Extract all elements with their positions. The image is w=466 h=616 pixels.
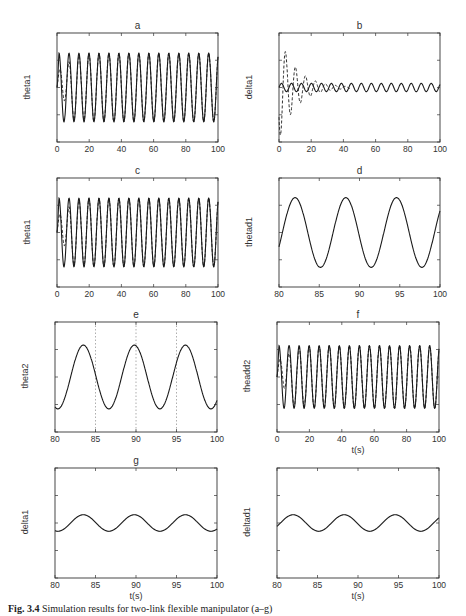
x-tick-label: 80 — [395, 434, 419, 444]
axes-box — [277, 468, 439, 578]
x-axis-label: t(s) — [277, 591, 439, 601]
x-tick-label: 80 — [265, 580, 289, 590]
x-tick-label: 85 — [307, 289, 331, 299]
x-axis-label: t(s) — [55, 591, 217, 601]
solid-series — [277, 346, 439, 409]
x-tick-label: 0 — [267, 144, 291, 154]
chart-title: a — [57, 20, 218, 31]
plot-area — [57, 178, 218, 287]
x-tick-label: 100 — [428, 144, 452, 154]
plot-area — [57, 33, 218, 142]
dashed-series — [279, 52, 351, 136]
x-tick-label: 95 — [165, 434, 189, 444]
x-tick-label: 80 — [43, 580, 67, 590]
solid-series — [279, 198, 440, 268]
x-tick-label: 80 — [396, 144, 420, 154]
x-tick-label: 0 — [45, 144, 69, 154]
x-tick-label: 0 — [265, 434, 289, 444]
x-tick-label: 20 — [77, 144, 101, 154]
x-tick-label: 90 — [348, 289, 372, 299]
x-tick-label: 100 — [205, 434, 229, 444]
chart-title: g — [55, 455, 217, 466]
plot-area — [55, 468, 217, 578]
axes-box — [55, 468, 217, 578]
x-tick-label: 90 — [346, 580, 370, 590]
x-tick-label: 80 — [267, 289, 291, 299]
solid-series — [277, 515, 439, 532]
x-tick-label: 100 — [206, 144, 230, 154]
y-axis-label: theta2 — [20, 346, 30, 406]
x-tick-label: 40 — [330, 434, 354, 444]
x-tick-label: 20 — [297, 434, 321, 444]
x-tick-label: 40 — [331, 144, 355, 154]
y-axis-label: theta1 — [22, 202, 32, 262]
caption-text: Simulation results for two-link flexible… — [42, 603, 273, 614]
y-axis-label: thetad1 — [244, 202, 254, 262]
x-tick-label: 95 — [165, 580, 189, 590]
chart-title: f — [277, 309, 439, 320]
x-tick-label: 90 — [124, 434, 148, 444]
chart-title: e — [55, 309, 217, 320]
plot-area — [277, 322, 439, 432]
x-tick-label: 100 — [428, 289, 452, 299]
x-tick-label: 100 — [427, 580, 451, 590]
axes-box — [55, 322, 217, 432]
x-tick-label: 85 — [84, 580, 108, 590]
y-axis-label: deltad1 — [242, 492, 252, 552]
x-tick-label: 85 — [306, 580, 330, 590]
x-tick-label: 95 — [388, 289, 412, 299]
y-axis-label: theta1 — [22, 57, 32, 117]
x-tick-label: 40 — [109, 144, 133, 154]
plot-area — [279, 178, 440, 287]
x-tick-label: 100 — [206, 289, 230, 299]
x-tick-label: 40 — [109, 289, 133, 299]
x-tick-label: 85 — [84, 434, 108, 444]
solid-series — [57, 53, 218, 122]
x-tick-label: 60 — [362, 434, 386, 444]
solid-series — [57, 198, 218, 267]
x-tick-label: 80 — [174, 289, 198, 299]
plot-area — [279, 33, 440, 142]
x-tick-label: 60 — [364, 144, 388, 154]
chart-title: d — [279, 165, 440, 176]
x-tick-label: 90 — [124, 580, 148, 590]
solid-series — [55, 515, 217, 532]
x-tick-label: 95 — [387, 580, 411, 590]
x-tick-label: 80 — [174, 144, 198, 154]
y-axis-label: delta1 — [244, 57, 254, 117]
x-axis-label: t(s) — [277, 445, 439, 455]
x-tick-label: 100 — [427, 434, 451, 444]
chart-title: b — [279, 20, 440, 31]
x-tick-label: 60 — [142, 144, 166, 154]
x-tick-label: 20 — [299, 144, 323, 154]
axes-box — [279, 178, 440, 287]
x-tick-label: 80 — [43, 434, 67, 444]
x-tick-label: 100 — [205, 580, 229, 590]
y-axis-label: delta1 — [20, 492, 30, 552]
plot-area — [277, 468, 439, 578]
y-axis-label: theadd2 — [242, 346, 252, 406]
chart-title: c — [57, 165, 218, 176]
caption-label: Fig. 3.4 — [8, 603, 39, 614]
figure-caption: Fig. 3.4 Simulation results for two-link… — [8, 603, 272, 614]
x-tick-label: 0 — [45, 289, 69, 299]
x-tick-label: 20 — [77, 289, 101, 299]
plot-area — [55, 322, 217, 432]
x-tick-label: 60 — [142, 289, 166, 299]
